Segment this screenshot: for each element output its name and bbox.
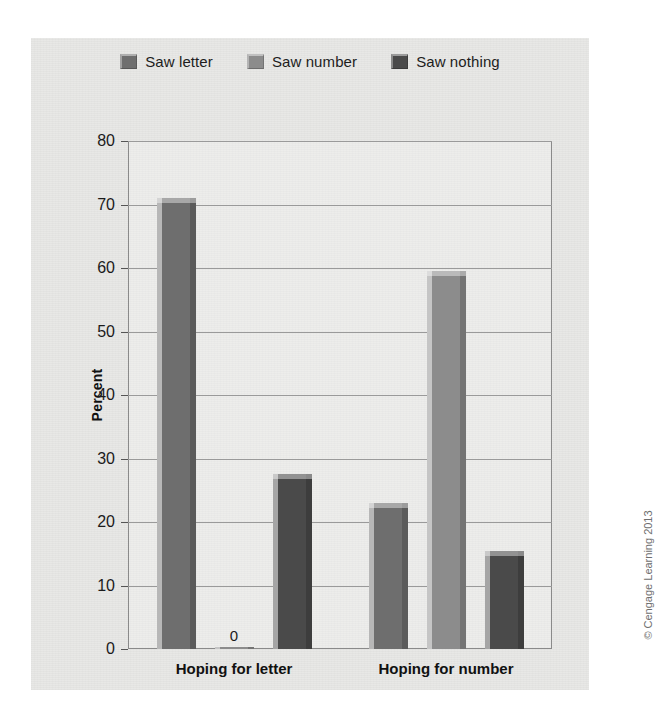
bar-face (485, 551, 524, 649)
legend-item-saw-number: Saw number (247, 53, 357, 70)
bar-value-label: 0 (230, 627, 238, 644)
y-axis-tick (121, 649, 128, 650)
bar-face (215, 647, 254, 649)
y-axis-tick (121, 205, 128, 206)
bar-top-cap (369, 503, 408, 508)
bar-saw-nothing[interactable] (485, 551, 524, 649)
bar-slot (147, 141, 205, 649)
chart-legend: Saw letter Saw number Saw nothing (31, 53, 589, 70)
y-axis-tick-label: 30 (97, 450, 115, 468)
legend-swatch-saw-letter (120, 54, 137, 69)
y-axis-tick (121, 395, 128, 396)
y-axis-tick-label: 80 (97, 132, 115, 150)
bar-saw-letter[interactable] (369, 503, 408, 649)
y-axis-tick-label: 10 (97, 577, 115, 595)
y-axis-tick (121, 332, 128, 333)
y-axis-tick (121, 586, 128, 587)
y-axis-tick-label: 60 (97, 259, 115, 277)
bar-slot (417, 141, 475, 649)
copyright-text: © Cengage Learning 2013 (642, 510, 654, 639)
y-axis-tick-label: 0 (106, 640, 115, 658)
bar-face (369, 503, 408, 649)
bar-saw-letter[interactable] (157, 198, 196, 649)
bar-group (340, 141, 552, 649)
bar-slot (263, 141, 321, 649)
x-axis-label: Hoping for letter (128, 660, 340, 677)
y-axis-tick-label: 40 (97, 386, 115, 404)
y-axis-tick-label: 20 (97, 513, 115, 531)
bar-top-cap (157, 198, 196, 203)
legend-swatch-saw-number (247, 54, 264, 69)
bar-face (157, 198, 196, 649)
bar-slot (359, 141, 417, 649)
y-axis-tick-label: 50 (97, 323, 115, 341)
y-axis-tick (121, 268, 128, 269)
legend-label-saw-nothing: Saw nothing (416, 53, 500, 70)
bar-face (427, 271, 466, 649)
x-axis-label: Hoping for number (340, 660, 552, 677)
bar-face (273, 474, 312, 649)
y-axis-tick (121, 141, 128, 142)
y-axis-tick (121, 459, 128, 460)
bar-top-cap (273, 474, 312, 479)
bar-saw-number[interactable] (427, 271, 466, 649)
bar-saw-number[interactable]: 0 (215, 647, 254, 649)
copyright-credit: © Cengage Learning 2013 (583, 470, 659, 680)
y-axis-tick (121, 522, 128, 523)
bar-slot: 0 (205, 141, 263, 649)
figure-panel: Saw letter Saw number Saw nothing Percen… (31, 38, 589, 690)
bar-saw-nothing[interactable] (273, 474, 312, 649)
plot-area: 01020304050607080 0 (128, 141, 552, 649)
legend-item-saw-letter: Saw letter (120, 53, 213, 70)
bar-slot (475, 141, 533, 649)
legend-swatch-saw-nothing (391, 54, 408, 69)
legend-label-saw-number: Saw number (272, 53, 357, 70)
bar-top-cap (485, 551, 524, 556)
bar-top-cap (427, 271, 466, 276)
bar-groups: 0 (128, 141, 552, 649)
bar-group: 0 (128, 141, 340, 649)
x-axis-labels: Hoping for letterHoping for number (128, 660, 552, 677)
legend-item-saw-nothing: Saw nothing (391, 53, 500, 70)
legend-label-saw-letter: Saw letter (145, 53, 213, 70)
y-axis-tick-label: 70 (97, 196, 115, 214)
